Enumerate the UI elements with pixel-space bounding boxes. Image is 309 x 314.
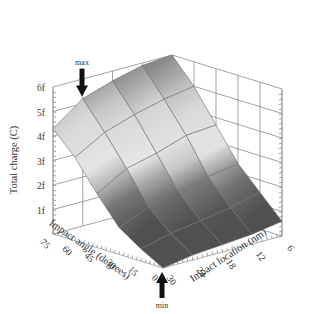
max-arrow-icon — [80, 69, 85, 87]
y-tick-label: 30 — [165, 274, 179, 288]
min-arrow-icon — [160, 282, 165, 298]
z-tick-label: 5f — [37, 108, 46, 118]
z-axis-label: Total charge (C) — [8, 125, 20, 194]
z-tick-label: 6f — [37, 83, 46, 93]
y-tick-label: 6 — [285, 243, 296, 253]
z-tick-label: 3f — [37, 157, 46, 167]
surface-plot: 1f2f3f4f5f6f75604530150302418126 maxmin … — [0, 0, 309, 314]
z-tick-label: 1f — [37, 206, 46, 216]
x-tick-label: 60 — [60, 244, 74, 258]
min-label: min — [156, 301, 168, 310]
max-arrowhead-icon — [76, 86, 88, 97]
max-label: max — [75, 58, 89, 67]
z-tick-label: 4f — [37, 132, 46, 142]
surface-chart: 1f2f3f4f5f6f75604530150302418126 maxmin … — [0, 0, 309, 314]
y-tick-label: 12 — [254, 250, 268, 264]
z-tick-label: 2f — [37, 181, 46, 191]
x-tick-label: 75 — [38, 237, 52, 251]
